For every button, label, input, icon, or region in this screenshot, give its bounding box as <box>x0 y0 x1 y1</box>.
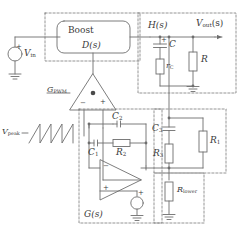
comparator-plus-terminal: + <box>100 99 106 106</box>
c1-subscript: 1 <box>95 151 99 157</box>
c-letter: C <box>169 39 176 49</box>
vin-subscript: in <box>31 52 36 58</box>
capacitor-plus-terminal: + <box>161 37 167 44</box>
boost-transfer-label: D(s) <box>82 41 101 50</box>
rlower-branch <box>163 182 175 220</box>
vpeak-subscript: peak <box>8 130 20 136</box>
opamp-plus-terminal: + <box>103 185 109 192</box>
c3-subscript: 3 <box>159 127 163 133</box>
c1-letter: C <box>88 147 95 157</box>
vout-subscript: out <box>203 22 212 28</box>
comparator-minus-terminal: − <box>80 100 86 107</box>
dashed-box-lower-divider <box>154 173 204 223</box>
rlower-label: Rlower <box>177 186 197 194</box>
node-vout-label: Vout(s) <box>196 19 223 29</box>
boost-block-label: Boost <box>68 26 94 35</box>
c2-letter: C <box>112 111 119 121</box>
r2-letter: R <box>116 147 123 157</box>
gpwm-label: GPWM <box>47 86 67 94</box>
capacitor-c-label: C <box>169 40 176 49</box>
sawtooth-waveform <box>22 124 73 143</box>
vin-source-label: Vin <box>24 49 36 59</box>
reference-plus-terminal: + <box>138 190 144 197</box>
r1-letter: R <box>210 135 217 145</box>
rc-subscript: C <box>170 64 174 70</box>
c3-letter: C <box>152 123 159 133</box>
c3-label: C3 <box>152 124 162 134</box>
vout-argument: (s) <box>212 18 224 28</box>
gpwm-subscript: PWM <box>53 88 67 94</box>
c1-r2-branch <box>88 123 148 147</box>
r1-label: R1 <box>210 136 220 146</box>
load-resistor-label: R <box>201 55 208 64</box>
rlower-subscript: lower <box>183 188 197 194</box>
circuit-diagram: Boost D(s) H(s) Vout(s) Vin + C + rC R G… <box>0 0 243 243</box>
r2-label: R2 <box>116 148 126 158</box>
opamp <box>88 128 146 221</box>
compensator-label: G(s) <box>84 210 103 219</box>
c1-label: C1 <box>88 148 98 158</box>
r-letter: R <box>201 54 208 64</box>
r3-letter: R <box>153 148 160 158</box>
r3-subscript: 3 <box>160 152 164 158</box>
vpeak-label: Vpeak <box>2 128 20 136</box>
c2-label: C2 <box>112 112 122 122</box>
load-resistor-branch <box>187 37 199 92</box>
opamp-minus-terminal: − <box>103 163 109 170</box>
r3-label: R3 <box>153 149 163 159</box>
r2-subscript: 2 <box>123 151 127 157</box>
esr-rc-label: rC <box>166 62 174 70</box>
r1-subscript: 1 <box>217 139 221 145</box>
node-hs-label: H(s) <box>148 21 168 30</box>
vin-plus-terminal: + <box>16 44 22 51</box>
c2-subscript: 2 <box>119 115 123 121</box>
